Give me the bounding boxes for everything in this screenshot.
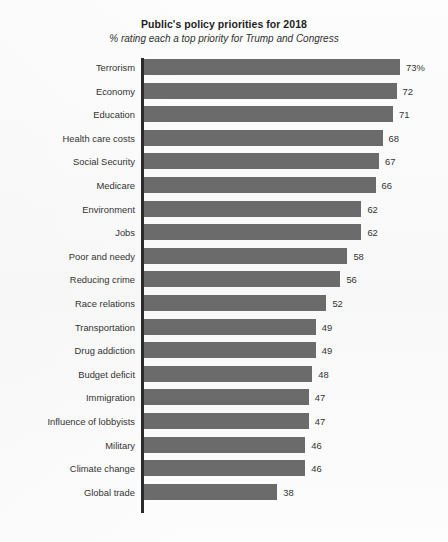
- bar-row: Race relations52: [0, 294, 448, 318]
- bar-value-label: 73%: [406, 61, 425, 74]
- category-label: Drug addiction: [75, 344, 135, 357]
- chart-header: Public's policy priorities for 2018 % ra…: [0, 17, 448, 46]
- bar-row: Global trade38: [0, 483, 448, 507]
- bar-value-label: 38: [283, 486, 293, 499]
- bar: [144, 389, 309, 405]
- bar-value-label: 67: [385, 155, 395, 168]
- category-label: Influence of lobbyists: [47, 415, 135, 428]
- bar: [144, 319, 316, 335]
- bar-rows: Terrorism73%Economy72Education71Health c…: [0, 58, 448, 506]
- bar-value-label: 71: [399, 108, 409, 121]
- category-label: Health care costs: [63, 132, 135, 145]
- bar-value-label: 48: [318, 368, 328, 381]
- bar-row: Economy72: [0, 82, 448, 106]
- bar-chart-figure: Public's policy priorities for 2018 % ra…: [0, 0, 448, 542]
- bar: [144, 484, 277, 500]
- bar-row: Drug addiction49: [0, 341, 448, 365]
- bar-row: Reducing crime56: [0, 270, 448, 294]
- category-label: Terrorism: [96, 61, 135, 74]
- bar: [144, 153, 379, 169]
- bar-row: Immigration47: [0, 388, 448, 412]
- bar-value-label: 72: [403, 85, 413, 98]
- category-label: Budget deficit: [78, 368, 135, 381]
- bar-value-label: 47: [315, 391, 325, 404]
- bar-value-label: 46: [311, 439, 321, 452]
- bar-value-label: 49: [322, 321, 332, 334]
- bar-value-label: 52: [332, 297, 342, 310]
- category-label: Immigration: [86, 391, 135, 404]
- bar-row: Health care costs68: [0, 129, 448, 153]
- bar: [144, 437, 305, 453]
- category-label: Reducing crime: [70, 273, 135, 286]
- category-label: Social Security: [73, 155, 135, 168]
- plot-area: Terrorism73%Economy72Education71Health c…: [0, 58, 448, 514]
- bar-row: Influence of lobbyists47: [0, 412, 448, 436]
- bar-row: Poor and needy58: [0, 247, 448, 271]
- bar: [144, 59, 400, 75]
- bar: [144, 130, 383, 146]
- bar: [144, 342, 316, 358]
- category-label: Global trade: [84, 486, 135, 499]
- category-label: Transportation: [75, 321, 135, 334]
- bar: [144, 83, 397, 99]
- bar: [144, 248, 347, 264]
- category-label: Education: [93, 108, 135, 121]
- bar-value-label: 56: [346, 273, 356, 286]
- bar: [144, 224, 361, 240]
- category-label: Military: [105, 439, 135, 452]
- bar-value-label: 49: [322, 344, 332, 357]
- chart-subtitle: % rating each a top priority for Trump a…: [0, 32, 448, 46]
- bar-value-label: 58: [353, 250, 363, 263]
- bar: [144, 106, 393, 122]
- category-label: Race relations: [75, 297, 135, 310]
- bar-row: Terrorism73%: [0, 58, 448, 82]
- bar: [144, 271, 340, 287]
- category-label: Jobs: [115, 226, 135, 239]
- bar: [144, 295, 326, 311]
- category-label: Poor and needy: [69, 250, 135, 263]
- bar: [144, 413, 309, 429]
- chart-title: Public's policy priorities for 2018: [0, 17, 448, 31]
- bar-row: Medicare66: [0, 176, 448, 200]
- bar-value-label: 68: [389, 132, 399, 145]
- category-label: Medicare: [96, 179, 135, 192]
- bar: [144, 366, 312, 382]
- category-label: Economy: [96, 85, 135, 98]
- bar-value-label: 47: [315, 415, 325, 428]
- bar-value-label: 62: [367, 226, 377, 239]
- bar-row: Social Security67: [0, 152, 448, 176]
- bar-row: Climate change46: [0, 459, 448, 483]
- bar-row: Transportation49: [0, 318, 448, 342]
- bar-value-label: 46: [311, 462, 321, 475]
- category-label: Climate change: [70, 462, 135, 475]
- bar-row: Budget deficit48: [0, 365, 448, 389]
- bar-row: Education71: [0, 105, 448, 129]
- category-label: Environment: [82, 203, 135, 216]
- bar-row: Environment62: [0, 200, 448, 224]
- bar: [144, 460, 305, 476]
- bar: [144, 177, 376, 193]
- bar-value-label: 62: [367, 203, 377, 216]
- bar-row: Jobs62: [0, 223, 448, 247]
- bar: [144, 201, 361, 217]
- bar-value-label: 66: [382, 179, 392, 192]
- bar-row: Military46: [0, 436, 448, 460]
